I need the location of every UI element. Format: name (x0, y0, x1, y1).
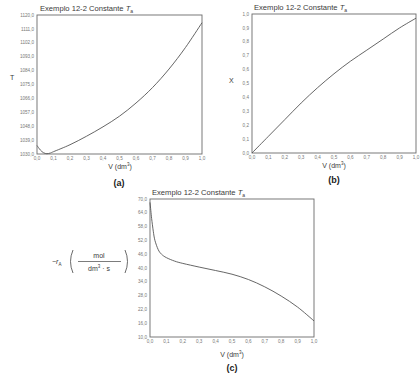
y-tick-label: 0,1 (243, 137, 250, 142)
x-tick-label: 0,2 (282, 155, 289, 160)
chart-c-frame (150, 199, 314, 337)
chart-c-y-label: −rA mol dm3 · s (52, 250, 128, 273)
chart-c-x-label: V (dm3) (220, 350, 244, 359)
figure: Exemplo 12-2 Constante Ta T V (dm3) (a) … (0, 0, 420, 373)
y-tick-label: 58,0 (138, 224, 147, 229)
y-tick-label: 1039,0 (20, 138, 34, 143)
x-tick-label: 0,3 (298, 155, 305, 160)
chart-c-data-line (150, 202, 314, 320)
x-tick-label: 0,1 (50, 156, 57, 161)
x-tick-label: 0,3 (83, 156, 90, 161)
x-tick-label: 0,9 (294, 339, 301, 344)
y-tick-label: 34,0 (138, 279, 147, 284)
chart-b-frame (252, 14, 416, 153)
y-tick-label: 1057,0 (20, 110, 34, 115)
x-tick-label: 1,0 (413, 155, 420, 160)
x-tick-label: 0,0 (249, 155, 256, 160)
x-tick-label: 0,5 (116, 156, 123, 161)
y-tick-label: 28,0 (138, 293, 147, 298)
x-tick-label: 0,6 (245, 339, 252, 344)
chart-c-title: Exemplo 12-2 Constante Ta (152, 188, 245, 198)
x-tick-label: 0,2 (180, 339, 187, 344)
y-tick-label: 1048,0 (20, 124, 34, 129)
chart-c-plot-area: 0,00,10,20,30,40,50,60,70,80,91,010,016,… (138, 197, 318, 344)
y-tick-label: 64,0 (138, 210, 147, 215)
chart-c-y-label-var: −rA (52, 258, 61, 267)
chart-b-y-label: X (229, 77, 234, 84)
chart-a-frame (37, 15, 202, 154)
x-tick-label: 0,0 (34, 156, 41, 161)
chart-a-x-label: V (dm3) (108, 162, 132, 171)
x-tick-label: 0,2 (67, 156, 74, 161)
y-tick-label: 1102,0 (20, 40, 34, 45)
chart-c: Exemplo 12-2 Constante Ta −rA mol dm3 · … (52, 188, 318, 373)
chart-a-y-label: T (10, 74, 15, 81)
y-tick-label: 0,4 (243, 95, 250, 100)
x-tick-label: 0,5 (229, 339, 236, 344)
y-tick-label: 1093,0 (20, 54, 34, 59)
x-tick-label: 0,8 (166, 156, 173, 161)
x-tick-label: 0,8 (380, 155, 387, 160)
y-tick-label: 0,5 (243, 81, 250, 86)
y-tick-label: 16,0 (138, 321, 147, 326)
y-tick-label: 0,8 (243, 39, 250, 44)
y-tick-label: 0,9 (243, 26, 250, 31)
x-tick-label: 0,7 (149, 156, 156, 161)
x-tick-label: 0,5 (331, 155, 338, 160)
y-tick-label: 0,0 (243, 151, 250, 156)
y-tick-label: 0,3 (243, 109, 250, 114)
y-tick-label: 22,0 (138, 307, 147, 312)
y-tick-label: 1120,0 (20, 13, 34, 18)
chart-a: Exemplo 12-2 Constante Ta T V (dm3) (a) … (10, 4, 206, 188)
chart-c-y-label-denominator: dm3 · s (88, 264, 110, 272)
y-tick-label: 1075,0 (20, 82, 34, 87)
chart-c-caption: (c) (227, 363, 238, 373)
x-tick-label: 0,3 (196, 339, 203, 344)
chart-b-x-label: V (dm3) (322, 161, 346, 170)
y-tick-label: 1066,0 (20, 96, 34, 101)
y-tick-label: 1030,0 (20, 152, 34, 157)
y-tick-label: 0,6 (243, 67, 250, 72)
x-tick-label: 1,0 (311, 339, 318, 344)
chart-a-plot-area: 0,00,10,20,30,40,50,60,70,80,91,01030,01… (20, 13, 206, 161)
chart-b-title: Exemplo 12-2 Constante Ta (254, 3, 347, 13)
x-tick-label: 0,1 (163, 339, 170, 344)
y-tick-label: 0,7 (243, 53, 250, 58)
chart-b-caption: (b) (328, 175, 340, 185)
chart-c-y-label-numerator: mol (93, 252, 105, 259)
x-tick-label: 0,9 (396, 155, 403, 160)
y-tick-label: 70,0 (138, 197, 147, 202)
y-tick-label: 52,0 (138, 238, 147, 243)
chart-b: Exemplo 12-2 Constante Ta X V (dm3) (b) … (229, 3, 420, 185)
chart-a-caption: (a) (114, 178, 125, 188)
x-tick-label: 0,7 (364, 155, 371, 160)
x-tick-label: 0,8 (278, 339, 285, 344)
chart-c-y-label-right-paren (125, 250, 128, 273)
x-tick-label: 0,4 (212, 339, 219, 344)
y-tick-label: 1084,0 (20, 68, 34, 73)
y-tick-label: 46,0 (138, 252, 147, 257)
y-tick-label: 0,2 (243, 123, 250, 128)
x-tick-label: 0,6 (347, 155, 354, 160)
chart-a-title: Exemplo 12-2 Constante Ta (40, 4, 133, 14)
x-tick-label: 0,0 (147, 339, 154, 344)
x-tick-label: 0,6 (133, 156, 140, 161)
x-tick-label: 0,7 (262, 339, 269, 344)
chart-b-data-line (252, 18, 416, 153)
y-tick-label: 10,0 (138, 335, 147, 340)
y-tick-label: 1,0 (243, 12, 250, 17)
chart-b-plot-area: 0,00,10,20,30,40,50,60,70,80,91,00,00,10… (243, 12, 420, 160)
x-tick-label: 0,9 (182, 156, 189, 161)
x-tick-label: 0,4 (100, 156, 107, 161)
x-tick-label: 0,1 (265, 155, 272, 160)
x-tick-label: 0,4 (314, 155, 321, 160)
chart-c-y-label-left-paren (71, 250, 74, 273)
chart-a-data-line (37, 23, 202, 154)
y-tick-label: 40,0 (138, 266, 147, 271)
y-tick-label: 1111,0 (21, 27, 34, 32)
x-tick-label: 1,0 (199, 156, 206, 161)
